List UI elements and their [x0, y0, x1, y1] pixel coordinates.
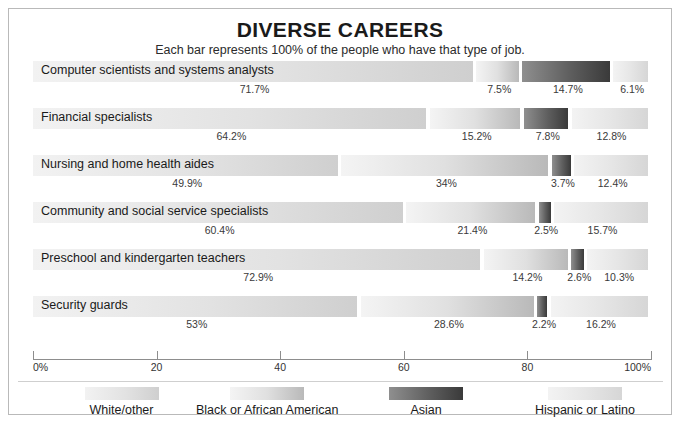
bar-category-label: Computer scientists and systems analysts — [41, 63, 274, 77]
segment-value-label: 60.4% — [205, 224, 235, 236]
axis-tick — [157, 351, 158, 360]
segment-value-label: 7.5% — [487, 83, 511, 95]
bar-segment — [476, 61, 519, 82]
segment-value-label: 14.7% — [553, 83, 583, 95]
axis-tick-label: 100% — [624, 361, 651, 373]
legend-swatch — [85, 387, 159, 400]
bar-segment — [341, 155, 548, 176]
segment-value-label: 6.1% — [620, 83, 644, 95]
axis-tick — [33, 351, 34, 360]
bar-row: 53%28.6%2.2%16.2%Security guards — [33, 296, 651, 336]
axis-tick — [527, 351, 528, 360]
legend-label: Black or African American — [194, 403, 340, 417]
bar-category-label: Security guards — [41, 298, 128, 312]
bar-segment — [571, 249, 584, 270]
legend-label: Hispanic or Latino — [512, 403, 658, 417]
bar-segment — [361, 296, 534, 317]
bar-row: 72.9%14.2%2.6%10.3%Preschool and kinderg… — [33, 249, 651, 289]
axis-tick — [404, 351, 405, 360]
bar-segment — [537, 296, 547, 317]
bar-row: 64.2%15.2%7.8%12.8%Financial specialists — [33, 108, 651, 148]
segment-value-label: 21.4% — [458, 224, 488, 236]
bar-segment — [430, 108, 521, 129]
segment-value-label: 64.2% — [216, 130, 246, 142]
legend-item: Asian — [353, 387, 499, 417]
bar-segment — [552, 155, 571, 176]
bar-category-label: Community and social service specialists — [41, 204, 268, 218]
bar-segment — [554, 202, 648, 223]
segment-value-label: 14.2% — [513, 271, 543, 283]
bar-segment — [574, 155, 647, 176]
legend-item: White/other — [49, 387, 195, 417]
chart-legend: White/otherBlack or African AmericanAsia… — [9, 387, 671, 425]
x-axis: 0%20406080100% — [33, 350, 651, 376]
segment-value-label: 34% — [436, 177, 457, 189]
bar-row: 49.9%34%3.7%12.4%Nursing and home health… — [33, 155, 651, 195]
segment-value-label: 16.2% — [586, 318, 616, 330]
segment-value-label: 49.9% — [172, 177, 202, 189]
bar-segment — [524, 108, 569, 129]
axis-tick — [651, 351, 652, 360]
chart-frame: DIVERSE CAREERS Each bar represents 100%… — [8, 8, 672, 415]
bar-row: 71.7%7.5%14.7%6.1%Computer scientists an… — [33, 61, 651, 101]
bar-category-label: Nursing and home health aides — [41, 157, 214, 171]
chart-subtitle: Each bar represents 100% of the people w… — [9, 43, 671, 57]
segment-value-label: 12.4% — [598, 177, 628, 189]
bar-row: 60.4%21.4%2.5%15.7%Community and social … — [33, 202, 651, 242]
bar-segment — [539, 202, 551, 223]
segment-value-label: 72.9% — [243, 271, 273, 283]
axis-tick-label: 0% — [33, 361, 48, 373]
axis-tick-label: 60 — [398, 361, 410, 373]
bar-segment — [587, 249, 647, 270]
bar-segment — [551, 296, 648, 317]
segment-value-label: 2.5% — [534, 224, 558, 236]
x-axis-line — [33, 359, 651, 360]
segment-value-label: 12.8% — [597, 130, 627, 142]
segment-value-label: 15.7% — [588, 224, 618, 236]
segment-value-label: 10.3% — [604, 271, 634, 283]
segment-value-label: 28.6% — [434, 318, 464, 330]
legend-label: White/other — [49, 403, 195, 417]
bar-category-label: Preschool and kindergarten teachers — [41, 251, 245, 265]
bar-segment — [484, 249, 568, 270]
bar-segment — [406, 202, 535, 223]
legend-item: Black or African American — [194, 387, 340, 417]
segment-value-label: 53% — [186, 318, 207, 330]
bar-category-label: Financial specialists — [41, 110, 152, 124]
segment-value-label: 3.7% — [551, 177, 575, 189]
legend-divider — [18, 381, 663, 382]
chart-title: DIVERSE CAREERS — [9, 18, 671, 42]
legend-swatch — [230, 387, 304, 400]
segment-value-label: 2.6% — [567, 271, 591, 283]
segment-value-label: 71.7% — [240, 83, 270, 95]
legend-swatch — [548, 387, 622, 400]
bar-segment — [572, 108, 648, 129]
axis-tick — [280, 351, 281, 360]
axis-tick-label: 20 — [151, 361, 163, 373]
axis-tick-label: 80 — [522, 361, 534, 373]
segment-value-label: 7.8% — [536, 130, 560, 142]
legend-label: Asian — [353, 403, 499, 417]
legend-swatch — [389, 387, 463, 400]
segment-value-label: 2.2% — [532, 318, 556, 330]
axis-tick-label: 40 — [274, 361, 286, 373]
legend-item: Hispanic or Latino — [512, 387, 658, 417]
bar-segment — [522, 61, 609, 82]
segment-value-label: 15.2% — [462, 130, 492, 142]
bar-segment — [613, 61, 647, 82]
plot-area: 71.7%7.5%14.7%6.1%Computer scientists an… — [33, 61, 651, 343]
